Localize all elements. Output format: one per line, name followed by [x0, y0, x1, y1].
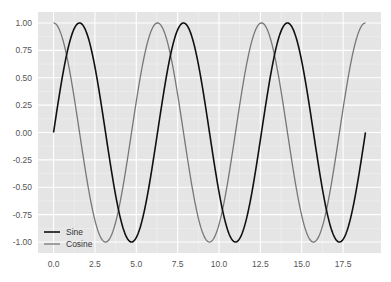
x-axis-ticks: 0.02.55.07.510.012.515.017.5 — [48, 259, 352, 269]
y-tick-label: 0.25 — [15, 100, 32, 110]
y-tick-label: -0.50 — [13, 182, 33, 192]
x-tick-label: 17.5 — [335, 259, 352, 269]
y-tick-label: 1.00 — [15, 18, 32, 28]
y-tick-label: -1.00 — [13, 237, 33, 247]
x-tick-label: 5.0 — [130, 259, 142, 269]
y-axis-ticks: 1.000.750.500.250.00-0.25-0.50-0.75-1.00 — [13, 18, 33, 247]
sine-legend-label: Sine — [66, 227, 83, 237]
y-tick-label: 0.00 — [15, 128, 32, 138]
x-tick-label: 0.0 — [48, 259, 60, 269]
y-tick-label: -0.25 — [13, 155, 33, 165]
x-tick-label: 10.0 — [211, 259, 228, 269]
cosine-legend-label: Cosine — [66, 239, 93, 249]
y-tick-label: -0.75 — [13, 210, 33, 220]
x-tick-label: 7.5 — [172, 259, 184, 269]
y-tick-label: 0.50 — [15, 73, 32, 83]
x-tick-label: 12.5 — [252, 259, 269, 269]
line-chart: 1.000.750.500.250.00-0.25-0.50-0.75-1.00… — [0, 0, 391, 282]
x-tick-label: 2.5 — [89, 259, 101, 269]
x-tick-label: 15.0 — [293, 259, 310, 269]
y-tick-label: 0.75 — [15, 45, 32, 55]
